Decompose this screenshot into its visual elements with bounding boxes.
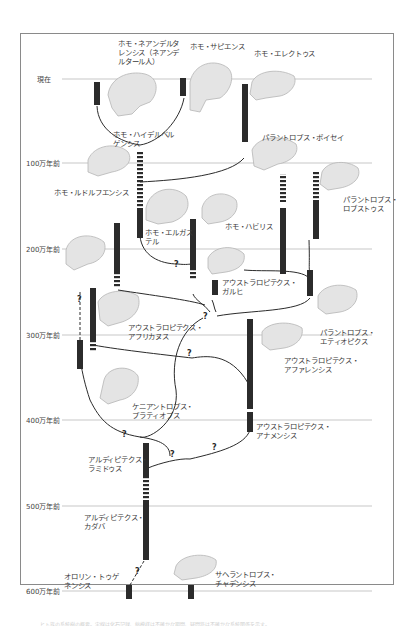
bar-neanderthalensis xyxy=(94,82,100,105)
label-ergaster: ホモ・エルガス テル xyxy=(145,228,193,246)
label-anamensis: アウストラロピテクス・ アナメンシス xyxy=(256,422,331,440)
bar-robustus-stripes xyxy=(313,171,319,201)
svg-text:?: ? xyxy=(212,443,217,452)
bar-africanus-stripes xyxy=(90,330,96,352)
tick-present: 現在 xyxy=(37,74,51,84)
bar-tugenensis xyxy=(126,585,132,599)
bar-ramidus-stripes xyxy=(143,477,149,501)
skull-tchadensis xyxy=(174,555,216,580)
skull-rudolf2 xyxy=(66,236,105,270)
caption-text: ヒト族の系統樹の概要。実線は化石記録、縞模様は不確かな期間、疑問符は不確かな系統… xyxy=(40,620,390,626)
label-heidelbergensis: ホモ・ハイデルベル ゲンシス xyxy=(113,130,174,148)
skull-aethiopicus xyxy=(318,285,357,314)
svg-text:?: ? xyxy=(203,312,208,321)
label-habilis: ホモ・ハビリス xyxy=(225,222,273,231)
bar-afarensis xyxy=(247,319,253,409)
svg-text:?: ? xyxy=(187,349,192,358)
tick-4ma: 400万年前 xyxy=(26,415,60,425)
bar-sapiens xyxy=(180,78,186,96)
bar-heidelbergensis-stripes xyxy=(137,151,143,208)
bar-rudolfensis xyxy=(114,223,120,273)
label-neanderthalensis: ホモ・ネアンデルタ レンシス（ネアンデ ルタール人） xyxy=(118,39,179,66)
bar-erectus xyxy=(242,84,248,142)
bar-heidelbergensis xyxy=(137,208,143,238)
label-afarensis: アウストラロピテクス・ アファレンシス xyxy=(284,356,359,374)
skull-boisei xyxy=(252,138,297,170)
bar-habilis-stripes xyxy=(190,263,196,279)
label-rudolfensis: ホモ・ルドルフエンシス xyxy=(54,188,129,197)
tick-2ma: 200万年前 xyxy=(26,244,60,254)
bar-boisei-stripes xyxy=(280,174,286,202)
bar-tugenensis-early xyxy=(77,340,83,369)
label-garhi: アウストラロピテクス・ ガルヒ xyxy=(222,278,297,296)
svg-text:?: ? xyxy=(135,567,140,576)
svg-text:?: ? xyxy=(174,260,179,269)
svg-text:?: ? xyxy=(77,295,82,304)
skull-ergaster xyxy=(146,189,188,224)
tick-3ma: 300万年前 xyxy=(26,330,60,340)
label-boisei: パラントロプス・ボイセイ xyxy=(262,133,344,142)
label-ramidus: アルディピテクス・ ラミドゥス xyxy=(88,455,148,473)
phylogeny-diagram: ? ? ? ? ? ? ? ? xyxy=(0,0,420,633)
bar-anamensis xyxy=(247,412,253,432)
label-erectus: ホモ・エレクトゥス xyxy=(254,49,315,58)
tick-1ma: 100万年前 xyxy=(26,158,60,168)
bar-garhi xyxy=(212,280,218,295)
label-kadabba: アルディピテクス・ カダバ xyxy=(84,513,144,531)
label-africanus: アウストラロピテクス・ アフリカヌス xyxy=(128,323,203,341)
skull-platyops xyxy=(100,368,138,404)
svg-text:?: ? xyxy=(170,450,175,459)
bar-robustus xyxy=(313,201,319,239)
tick-5ma: 500万年前 xyxy=(26,501,60,511)
bar-aethiopicus xyxy=(307,270,313,296)
label-robustus: パラントロプス・ ロブストゥス xyxy=(343,195,397,213)
label-aethiopicus: パラントロプス・ エティオピクス xyxy=(320,328,374,346)
skull-rudolfensis xyxy=(88,146,130,176)
tick-6ma: 600万年前 xyxy=(26,586,60,596)
bar-tchadensis xyxy=(188,585,194,599)
skull-afarensis xyxy=(262,323,302,350)
skull-garhi-area xyxy=(208,248,244,274)
bar-boisei xyxy=(280,208,286,274)
label-sapiens: ホモ・サピエンス xyxy=(190,42,244,51)
label-tchadensis: サヘラントロプス・ チャデンシス xyxy=(215,570,276,588)
skull-africanus xyxy=(98,291,139,326)
skull-habilis xyxy=(202,194,237,224)
label-platyops: ケニアントロプス・ プラティオプス xyxy=(132,402,193,420)
skull-erectus xyxy=(250,71,295,100)
skull-robustus xyxy=(320,162,359,190)
skull-sapiens xyxy=(190,63,232,112)
bar-rudolfensis-stripes xyxy=(114,273,120,288)
label-tugenensis: オロリン・トゥゲ ネンシス xyxy=(64,572,118,590)
svg-text:?: ? xyxy=(122,430,127,439)
